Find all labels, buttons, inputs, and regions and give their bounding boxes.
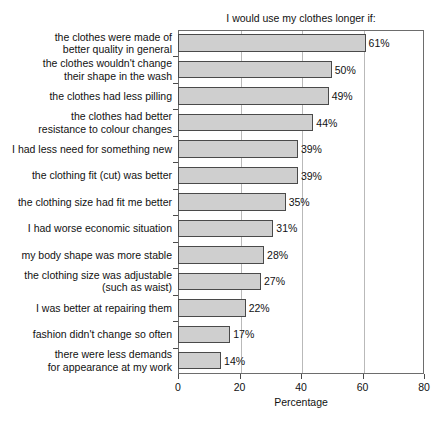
y-category-label: fashion didn't change so often	[0, 321, 172, 347]
bar-value-label: 22%	[246, 302, 270, 314]
y-category-label: there were less demandsfor appearance at…	[0, 348, 172, 374]
bar	[178, 61, 332, 78]
y-category-label: the clothes wouldn't changetheir shape i…	[0, 56, 172, 82]
bar	[178, 273, 261, 290]
bar	[178, 87, 329, 104]
bar	[178, 220, 273, 237]
y-category-line: the clothing fit (cut) was better	[0, 169, 172, 182]
bar-row: 50%	[178, 61, 424, 78]
bar-row: 49%	[178, 87, 424, 104]
y-category-label: my body shape was more stable	[0, 242, 172, 268]
bar-value-label: 27%	[261, 275, 285, 287]
y-category-line: I had worse economic situation	[0, 222, 172, 235]
x-axis-tick	[301, 374, 302, 379]
bar-row: 39%	[178, 167, 424, 184]
y-category-line: the clothing size was adjustable	[0, 269, 172, 282]
y-category-label: the clothing size was adjustable(such as…	[0, 268, 172, 294]
bar-value-label: 31%	[273, 222, 297, 234]
x-axis-tick	[363, 374, 364, 379]
x-axis-tick-label: 60	[357, 381, 369, 393]
bar-chart: I would use my clothes longer if: the cl…	[0, 0, 444, 425]
bar-value-label: 14%	[221, 355, 245, 367]
x-axis-tick	[424, 374, 425, 379]
bar-value-label: 17%	[230, 328, 254, 340]
chart-title: I would use my clothes longer if:	[178, 12, 424, 25]
x-axis-tick-label: 0	[175, 381, 181, 393]
bar	[178, 246, 264, 263]
bar-row: 28%	[178, 246, 424, 263]
y-category-line: the clothing size had fit me better	[0, 196, 172, 209]
bar-row: 17%	[178, 326, 424, 343]
x-axis-title: Percentage	[178, 396, 424, 408]
bar-row: 35%	[178, 193, 424, 210]
bar-value-label: 39%	[298, 170, 322, 182]
x-axis-tick-label: 40	[295, 381, 307, 393]
y-category-line: better quality in general	[0, 43, 172, 56]
x-axis-tick-label: 20	[234, 381, 246, 393]
y-category-line: the clothes had better	[0, 110, 172, 123]
bar-value-label: 39%	[298, 143, 322, 155]
bar	[178, 34, 366, 51]
y-category-line: the clothes were made of	[0, 31, 172, 44]
y-category-line: (such as waist)	[0, 281, 172, 294]
x-axis-tick	[178, 374, 179, 379]
bar-value-label: 50%	[332, 64, 356, 76]
bar-value-label: 44%	[313, 117, 337, 129]
y-category-line: for appearance at my work	[0, 361, 172, 374]
y-category-line: the clothes wouldn't change	[0, 57, 172, 70]
bar	[178, 299, 246, 316]
y-category-line: fashion didn't change so often	[0, 328, 172, 341]
y-category-label: the clothes had betterresistance to colo…	[0, 109, 172, 135]
bar-value-label: 61%	[366, 37, 390, 49]
bar	[178, 326, 230, 343]
y-category-label: the clothing fit (cut) was better	[0, 162, 172, 188]
y-category-label: the clothing size had fit me better	[0, 189, 172, 215]
bar-row: 31%	[178, 220, 424, 237]
y-category-line: their shape in the wash	[0, 70, 172, 83]
bar	[178, 140, 298, 157]
y-category-label: the clothes had less pilling	[0, 83, 172, 109]
x-axis-tick	[240, 374, 241, 379]
bars-layer: 61%50%49%44%39%39%35%31%28%27%22%17%14%	[178, 30, 424, 374]
bar	[178, 114, 313, 131]
bar-value-label: 35%	[286, 196, 310, 208]
bar	[178, 352, 221, 369]
y-category-label: I was better at repairing them	[0, 295, 172, 321]
y-category-label: the clothes were made ofbetter quality i…	[0, 30, 172, 56]
y-category-line: the clothes had less pilling	[0, 90, 172, 103]
y-category-line: there were less demands	[0, 348, 172, 361]
bar	[178, 167, 298, 184]
y-category-label: I had worse economic situation	[0, 215, 172, 241]
x-axis-tick-label: 80	[418, 381, 430, 393]
bar-row: 27%	[178, 273, 424, 290]
bar-row: 61%	[178, 34, 424, 51]
y-category-line: I had less need for something new	[0, 143, 172, 156]
bar-value-label: 49%	[329, 90, 353, 102]
bar-value-label: 28%	[264, 249, 288, 261]
y-category-line: I was better at repairing them	[0, 302, 172, 315]
y-category-label: I had less need for something new	[0, 136, 172, 162]
y-axis-category-labels: the clothes were made ofbetter quality i…	[0, 30, 172, 374]
y-category-line: resistance to colour changes	[0, 123, 172, 136]
bar-row: 14%	[178, 352, 424, 369]
bar	[178, 193, 286, 210]
bar-row: 39%	[178, 140, 424, 157]
y-category-line: my body shape was more stable	[0, 249, 172, 262]
bar-row: 44%	[178, 114, 424, 131]
bar-row: 22%	[178, 299, 424, 316]
